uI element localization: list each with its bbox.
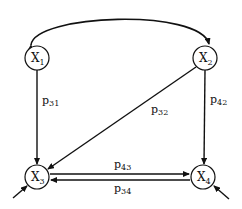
node-x3: X3 xyxy=(25,165,49,189)
node-x1: X1 xyxy=(25,46,49,70)
label-p42: p42 xyxy=(210,93,227,107)
disturbance-arrow-x3 xyxy=(13,186,27,198)
label-p31: p31 xyxy=(42,94,59,108)
path-x2-x3 xyxy=(48,67,196,169)
label-p43: p43 xyxy=(114,158,131,172)
disturbance-arrow-x4 xyxy=(214,186,229,199)
path-diagram: X1 X2 X3 X4 p31 p32 p42 p43 p34 xyxy=(0,0,242,209)
label-p32: p32 xyxy=(151,103,168,117)
node-x2: X2 xyxy=(193,46,217,70)
node-x4: X4 xyxy=(191,165,215,189)
path-x2-x4 xyxy=(204,70,205,164)
label-p34: p34 xyxy=(114,182,131,196)
correlation-arc-x1-x2 xyxy=(31,19,209,45)
